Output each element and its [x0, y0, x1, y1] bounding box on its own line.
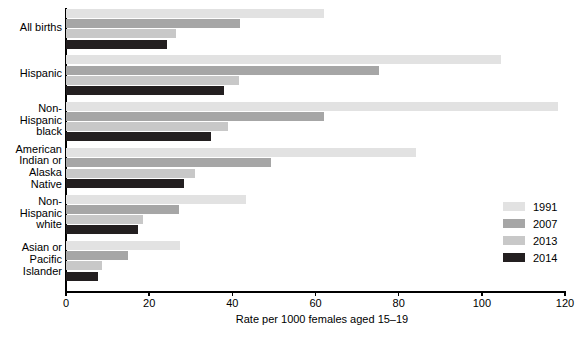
x-tick-label-80: 80 [393, 297, 405, 309]
category-label-line: Islander [0, 266, 62, 278]
legend-item-2013: 2013 [503, 232, 557, 249]
category-label-line: Pacific [0, 254, 62, 266]
bar-2013-group-2 [66, 122, 228, 131]
x-tick-label-60: 60 [309, 297, 321, 309]
legend-label-2014: 2014 [533, 252, 557, 264]
bar-2007-group-2 [66, 112, 324, 121]
bar-2014-group-3 [66, 179, 184, 188]
category-label-line: black [0, 126, 62, 138]
x-tick-label-100: 100 [473, 297, 491, 309]
x-tick-label-40: 40 [226, 297, 238, 309]
legend-item-1991: 1991 [503, 198, 557, 215]
bar-2014-group-2 [66, 132, 211, 141]
bar-chart: 020406080100120 All birthsHispanicNon-Hi… [0, 0, 584, 337]
bar-2013-group-3 [66, 169, 195, 178]
x-axis-title: Rate per 1000 females aged 15–19 [0, 313, 584, 325]
legend-swatch-2014 [503, 253, 525, 262]
bar-2014-group-0 [66, 40, 167, 49]
category-label-line: Alaska [0, 167, 62, 179]
bar-1991-group-2 [66, 102, 558, 111]
x-tick-label-0: 0 [63, 297, 69, 309]
x-axis-title-text: Rate per 1000 females aged 15–19 [176, 313, 408, 325]
category-label-0: All births [0, 22, 62, 34]
bar-2013-group-0 [66, 29, 176, 38]
category-label-line: Hispanic [0, 68, 62, 80]
bar-2013-group-1 [66, 76, 239, 85]
bar-2014-group-4 [66, 225, 138, 234]
x-tick-20 [148, 291, 150, 296]
category-label-4: Non-Hispanicwhite [0, 196, 62, 231]
x-tick-60 [315, 291, 317, 296]
legend-label-2013: 2013 [533, 235, 557, 247]
bar-2007-group-3 [66, 158, 271, 167]
legend-item-2014: 2014 [503, 249, 557, 266]
bar-2014-group-5 [66, 272, 98, 281]
category-label-3: AmericanIndian orAlaskaNative [0, 144, 62, 190]
category-label-line: All births [0, 22, 62, 34]
x-tick-100 [481, 291, 483, 296]
legend-item-2007: 2007 [503, 215, 557, 232]
x-tick-80 [398, 291, 400, 296]
bar-1991-group-1 [66, 55, 501, 64]
chart-legend: 1991200720132014 [503, 198, 557, 266]
bar-1991-group-5 [66, 241, 180, 250]
bar-1991-group-0 [66, 9, 324, 18]
x-tick-label-20: 20 [143, 297, 155, 309]
legend-swatch-2013 [503, 236, 525, 245]
category-label-line: Non- [0, 196, 62, 208]
bar-2007-group-5 [66, 251, 128, 260]
category-label-line: Native [0, 179, 62, 191]
legend-label-2007: 2007 [533, 218, 557, 230]
bar-1991-group-4 [66, 195, 246, 204]
x-tick-120 [564, 291, 566, 296]
bar-2013-group-5 [66, 261, 102, 270]
category-label-1: Hispanic [0, 68, 62, 80]
bar-2007-group-0 [66, 19, 240, 28]
bar-1991-group-3 [66, 148, 416, 157]
bar-2007-group-1 [66, 66, 379, 75]
category-label-2: Non-Hispanicblack [0, 103, 62, 138]
bar-2007-group-4 [66, 205, 179, 214]
category-label-line: white [0, 219, 62, 231]
bar-2013-group-4 [66, 215, 143, 224]
category-label-5: Asian orPacificIslander [0, 242, 62, 277]
legend-swatch-1991 [503, 202, 525, 211]
x-tick-0 [65, 291, 67, 296]
x-tick-40 [232, 291, 234, 296]
x-tick-label-120: 120 [556, 297, 574, 309]
bar-2014-group-1 [66, 86, 224, 95]
legend-label-1991: 1991 [533, 201, 557, 213]
legend-swatch-2007 [503, 219, 525, 228]
